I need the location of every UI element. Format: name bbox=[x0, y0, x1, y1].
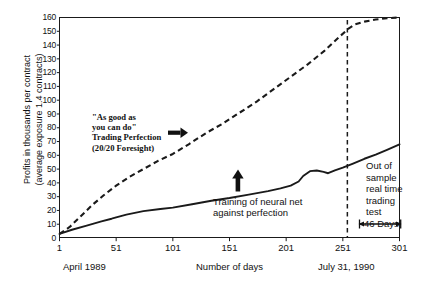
x-axis-caption-start: April 1989 bbox=[63, 261, 106, 272]
x-axis-caption-center: Number of days bbox=[196, 261, 263, 272]
annotation-out-of-sample: Out of sample real time trading test bbox=[366, 160, 412, 218]
x-axis-tick-marks bbox=[60, 238, 400, 241]
chart-vector-layer bbox=[0, 0, 423, 284]
annotation-line: sample bbox=[366, 172, 412, 184]
annotation-line: test bbox=[366, 206, 412, 218]
annotation-line: "As good as bbox=[92, 112, 202, 122]
annotation-line: you can do" bbox=[92, 122, 202, 132]
annotation-trading-perfection: "As good as you can do" Trading Perfecti… bbox=[92, 112, 202, 153]
callout-arrow-up-icon bbox=[232, 170, 243, 192]
x-axis-tick-label: 151 bbox=[210, 243, 250, 253]
x-axis-tick-label: 301 bbox=[380, 243, 420, 253]
x-axis-tick-label: 201 bbox=[266, 243, 306, 253]
annotation-line: Out of bbox=[366, 160, 412, 172]
x-axis-caption-end: July 31, 1990 bbox=[318, 261, 375, 272]
annotation-line: trading bbox=[366, 195, 412, 207]
x-axis-tick-label: 51 bbox=[96, 243, 136, 253]
x-axis-tick-label: 1 bbox=[40, 243, 80, 253]
annotation-line: Training of neural net bbox=[213, 196, 343, 207]
x-axis-tick-label: 101 bbox=[153, 243, 193, 253]
y-axis-tick-marks bbox=[57, 31, 60, 224]
annotation-line: real time bbox=[366, 183, 412, 195]
annotation-training: Training of neural net against perfectio… bbox=[213, 196, 343, 218]
annotation-line: (20/20 Foresight) bbox=[92, 143, 202, 153]
annotation-span-days: 46 Days bbox=[364, 219, 399, 229]
x-axis-tick-label: 251 bbox=[323, 243, 363, 253]
annotation-line: against perfection bbox=[213, 207, 343, 218]
annotation-line: Trading Perfection bbox=[92, 132, 202, 142]
chart-figure: Profits in thousands per contract (avera… bbox=[0, 0, 423, 284]
